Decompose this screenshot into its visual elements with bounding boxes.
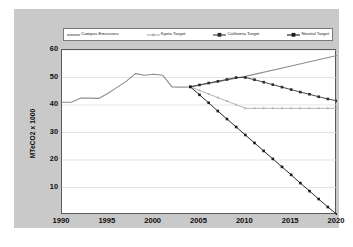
data-point-marker: [272, 83, 275, 86]
legend-key-line-marker-icon: [147, 32, 160, 38]
data-point-marker: [290, 174, 293, 177]
data-point-marker: [309, 107, 311, 109]
data-point-marker: [317, 95, 320, 98]
legend-key-line-marker-icon: [287, 32, 300, 38]
y-axis-tick-label: 20: [36, 155, 58, 162]
y-axis-tick-label: 10: [36, 183, 58, 190]
data-point-marker: [235, 126, 238, 129]
data-point-marker: [336, 213, 337, 215]
x-axis-tick-label: 2000: [133, 217, 173, 225]
y-axis-ticks: 102030405060: [32, 49, 58, 214]
data-point-marker: [226, 100, 228, 102]
x-axis-tick-label: 2020: [316, 217, 353, 225]
data-point-marker: [281, 166, 284, 169]
data-point-marker: [198, 84, 201, 87]
data-point-marker: [208, 93, 210, 95]
x-axis-tick-label: 2010: [224, 217, 264, 225]
legend-item-neutral-target[interactable]: Neutral Target: [287, 32, 329, 38]
data-point-marker: [253, 78, 256, 81]
legend-label: Kyoto Target: [161, 32, 186, 36]
y-axis-tick-label: 50: [36, 73, 58, 80]
data-point-marker: [336, 100, 337, 103]
data-point-marker: [253, 142, 256, 145]
data-point-marker: [308, 93, 311, 96]
plot-area: [61, 49, 336, 214]
legend-key-line-icon: [67, 32, 80, 38]
data-point-marker: [327, 98, 330, 101]
x-axis-tick-label: 1995: [87, 217, 127, 225]
chart-legend: Campus Emissions Kyoto Target California…: [63, 28, 333, 41]
y-axis-tick-label: 30: [36, 128, 58, 135]
chart-panel: Campus Emissions Kyoto Target California…: [14, 9, 339, 228]
data-point-marker: [217, 80, 220, 83]
legend-item-campus-emissions[interactable]: Campus Emissions: [67, 32, 119, 38]
x-axis-tick-label: 2005: [179, 217, 219, 225]
data-point-marker: [290, 88, 293, 91]
data-point-marker: [281, 107, 283, 109]
legend-label: Neutral Target: [301, 32, 329, 36]
data-point-marker: [262, 150, 265, 153]
data-point-marker: [226, 118, 229, 121]
data-point-marker: [207, 102, 210, 105]
data-point-marker: [299, 107, 301, 109]
legend-item-california-target[interactable]: California Target: [213, 32, 259, 38]
data-point-marker: [262, 81, 265, 84]
legend-item-kyoto-target[interactable]: Kyoto Target: [147, 32, 186, 38]
x-axis-tick-label: 1990: [41, 217, 81, 225]
data-point-marker: [235, 76, 238, 79]
plot-svg: [62, 50, 337, 215]
data-point-marker: [318, 107, 320, 109]
data-point-marker: [244, 107, 246, 109]
data-point-marker: [281, 86, 284, 89]
data-point-marker: [244, 134, 247, 137]
data-point-marker: [207, 82, 210, 85]
data-point-marker: [299, 91, 302, 94]
data-point-marker: [199, 89, 201, 91]
y-axis-tick-label: 40: [36, 100, 58, 107]
legend-key-line-marker-icon: [213, 32, 226, 38]
data-point-marker: [226, 78, 229, 81]
data-point-marker: [299, 182, 302, 185]
data-point-marker: [327, 206, 330, 209]
data-point-marker: [235, 104, 237, 106]
data-point-marker: [308, 190, 311, 193]
x-axis-ticks: 1990199520002005201020152020: [61, 217, 336, 233]
data-point-marker: [327, 107, 329, 109]
legend-label: Campus Emissions: [81, 32, 119, 36]
data-point-marker: [244, 76, 247, 79]
data-point-marker: [336, 107, 337, 109]
y-axis-tick-label: 60: [36, 45, 58, 52]
data-point-marker: [290, 107, 292, 109]
data-point-marker: [254, 107, 256, 109]
data-point-marker: [189, 86, 192, 89]
emissions-chart-figure: Campus Emissions Kyoto Target California…: [0, 0, 353, 247]
data-point-marker: [263, 107, 265, 109]
data-point-marker: [198, 94, 201, 97]
data-point-marker: [272, 107, 274, 109]
data-point-marker: [272, 158, 275, 161]
data-point-marker: [217, 110, 220, 113]
x-axis-tick-label: 2015: [270, 217, 310, 225]
data-point-marker: [317, 198, 320, 201]
legend-label: California Target: [227, 32, 259, 36]
data-point-marker: [217, 97, 219, 99]
